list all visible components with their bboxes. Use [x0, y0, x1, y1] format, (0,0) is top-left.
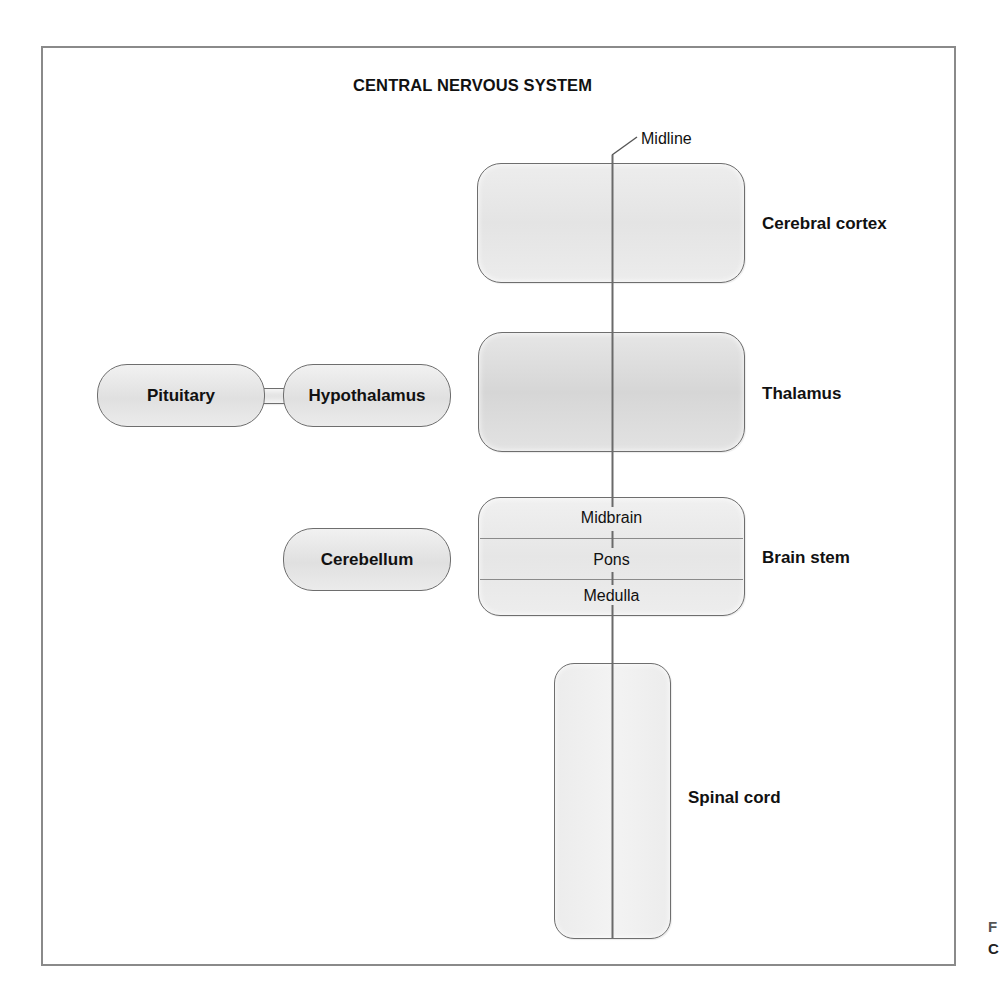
thalamus-label: Thalamus [762, 384, 841, 404]
cerebral-cortex-label: Cerebral cortex [762, 214, 887, 234]
pituitary-box: Pituitary [97, 364, 265, 427]
cerebellum-label: Cerebellum [321, 550, 414, 570]
spinal-cord-box [554, 663, 671, 939]
medulla-label: Medulla [479, 587, 744, 605]
midbrain-label: Midbrain [479, 509, 744, 527]
caption-fragment: F [988, 918, 997, 935]
diagram-title: CENTRAL NERVOUS SYSTEM [353, 76, 592, 95]
brain-stem-divider [480, 579, 743, 580]
cerebellum-box: Cerebellum [283, 528, 451, 591]
thalamus-box [478, 332, 745, 452]
caption-fragment: C [988, 940, 999, 957]
brain-stem-box: Midbrain Pons Medulla [478, 497, 745, 616]
hypothalamus-label: Hypothalamus [308, 386, 425, 406]
pons-label: Pons [479, 551, 744, 569]
brain-stem-divider [480, 538, 743, 539]
pituitary-label: Pituitary [147, 386, 215, 406]
hypothalamus-box: Hypothalamus [283, 364, 451, 427]
cerebral-cortex-box [477, 163, 745, 283]
brain-stem-label: Brain stem [762, 548, 850, 568]
spinal-cord-label: Spinal cord [688, 788, 781, 808]
midline-label: Midline [641, 130, 692, 148]
